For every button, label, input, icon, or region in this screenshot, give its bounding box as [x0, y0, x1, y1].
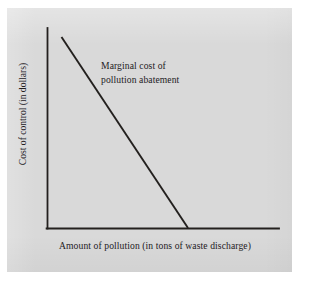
y-axis-label: Cost of control (in dollars) — [17, 63, 28, 165]
curve-annotation: Marginal cost of pollution abatement — [101, 59, 179, 87]
plot-drawing — [0, 0, 309, 281]
figure-root: Marginal cost of pollution abatement Amo… — [0, 0, 309, 281]
x-axis-label: Amount of pollution (in tons of waste di… — [59, 240, 251, 251]
curve-annotation-line-2: pollution abatement — [101, 73, 179, 87]
y-axis-label-container: Cost of control (in dollars) — [0, 0, 44, 228]
curve-annotation-line-1: Marginal cost of — [101, 59, 179, 73]
